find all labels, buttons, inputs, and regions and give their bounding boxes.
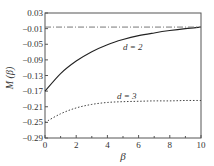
y-tick-label: 0.03 [27, 8, 43, 18]
x-tick-label: 2 [74, 140, 79, 150]
series-d3-line [45, 100, 201, 122]
x-tick-label: 4 [105, 140, 110, 150]
y-tick-label: −0.21 [22, 102, 43, 112]
series-d2-line [45, 27, 201, 91]
annotation-d3: d = 3 [117, 91, 137, 101]
y-tick-label: −0.09 [22, 55, 43, 65]
y-axis-label: M (β) [4, 66, 16, 90]
y-tick-label: −0.25 [22, 117, 43, 127]
y-tick-label: −0.01 [22, 24, 43, 34]
x-axis-label: β [119, 150, 126, 162]
x-tick-label: 10 [197, 140, 207, 150]
y-tick-label: −0.13 [22, 71, 43, 81]
x-tick-label: 6 [136, 140, 141, 150]
plot-frame [45, 13, 201, 138]
annotation-d2: d = 2 [123, 42, 143, 52]
x-tick-label: 8 [168, 140, 173, 150]
y-tick-label: −0.17 [22, 86, 43, 96]
plot-area: 0.03−0.01−0.05−0.09−0.13−0.17−0.21−0.25−… [22, 8, 206, 150]
chart: 0.03−0.01−0.05−0.09−0.13−0.17−0.21−0.25−… [0, 0, 214, 166]
y-tick-label: −0.29 [22, 133, 43, 143]
x-tick-label: 0 [43, 140, 48, 150]
y-tick-label: −0.05 [22, 39, 43, 49]
